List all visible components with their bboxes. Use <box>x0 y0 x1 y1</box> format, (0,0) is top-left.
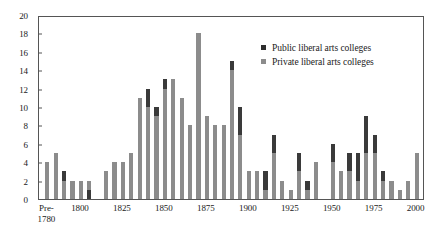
bar-segment-private <box>364 153 368 199</box>
bar-segment-public <box>163 79 167 88</box>
bar-segment-private <box>146 107 150 199</box>
bar-segment-private <box>381 181 385 199</box>
bar-segment-private <box>331 162 335 199</box>
bar <box>138 98 142 199</box>
bar-segment-private <box>255 171 259 199</box>
chart-figure: 02468101214161820 Public liberal arts co… <box>0 0 434 237</box>
bar <box>389 181 393 199</box>
bar-segment-public <box>297 153 301 171</box>
bar <box>280 181 284 199</box>
bar-segment-public <box>154 107 158 116</box>
bar-segment-private <box>45 162 49 199</box>
bar-segment-private <box>171 79 175 199</box>
bar <box>154 107 158 199</box>
bar-segment-private <box>356 181 360 199</box>
bar-segment-private <box>263 190 267 199</box>
bar-segment-private <box>79 181 83 199</box>
bar <box>213 125 217 199</box>
x-tick-label: 2000 <box>407 203 425 214</box>
bar-segment-private <box>154 116 158 199</box>
bar <box>339 171 343 199</box>
bar <box>112 162 116 199</box>
bar <box>79 181 83 199</box>
bar <box>222 125 226 199</box>
bar <box>121 162 125 199</box>
bar <box>406 181 410 199</box>
legend-label-private: Private liberal arts colleges <box>272 57 374 67</box>
bar-segment-private <box>70 181 74 199</box>
y-tick-mark <box>38 108 42 109</box>
y-tick-label: 12 <box>19 85 28 94</box>
bar <box>247 171 251 199</box>
bar-segment-private <box>104 171 108 199</box>
bar <box>205 116 209 199</box>
bar-segment-public <box>356 153 360 181</box>
legend-item-private: Private liberal arts colleges <box>261 55 434 68</box>
bar-segment-public <box>305 181 309 190</box>
y-tick-mark <box>38 71 42 72</box>
bar-segment-private <box>196 33 200 199</box>
bar-segment-private <box>305 190 309 199</box>
bar <box>373 135 377 199</box>
bar-segment-private <box>238 135 242 199</box>
bar-segment-public <box>347 153 351 171</box>
plot-area: Public liberal arts colleges Private lib… <box>38 16 424 200</box>
bar-segment-private <box>272 153 276 199</box>
legend-swatch-private-icon <box>261 59 266 64</box>
bar <box>171 79 175 199</box>
bar-segment-public <box>230 61 234 70</box>
bar-segment-public <box>238 107 242 135</box>
legend-label-public: Public liberal arts colleges <box>272 43 371 53</box>
y-tick-label: 4 <box>24 159 28 168</box>
bar <box>188 125 192 199</box>
bar-segment-private <box>339 171 343 199</box>
bar-segment-public <box>364 116 368 153</box>
bar-segment-public <box>381 171 385 180</box>
y-tick-label: 16 <box>19 48 28 57</box>
legend-item-public: Public liberal arts colleges <box>261 41 434 54</box>
bar <box>104 171 108 199</box>
y-axis: 02468101214161820 <box>0 16 34 200</box>
y-tick-mark <box>38 181 42 182</box>
bar <box>196 33 200 199</box>
bar-segment-private <box>129 153 133 199</box>
bar <box>272 135 276 199</box>
bar <box>87 181 91 199</box>
bar <box>62 171 66 199</box>
bar-segment-private <box>205 116 209 199</box>
bar-segment-private <box>373 153 377 199</box>
bar-segment-private <box>398 190 402 199</box>
bar-segment-private <box>222 125 226 199</box>
bar-segment-private <box>289 190 293 199</box>
bar-segment-private <box>138 98 142 199</box>
bar <box>70 181 74 199</box>
bar <box>415 153 419 199</box>
bar <box>146 89 150 199</box>
y-tick-label: 0 <box>24 196 28 205</box>
x-tick-label: 1950 <box>323 203 341 214</box>
bar-segment-public <box>62 171 66 180</box>
y-tick-label: 8 <box>24 122 28 131</box>
bar <box>398 190 402 199</box>
x-axis: Pre-178018001825185018751900192519501975… <box>38 203 424 235</box>
bar-segment-public <box>87 190 91 199</box>
bar-segment-private <box>406 181 410 199</box>
bar-segment-private <box>112 162 116 199</box>
bar-segment-public <box>263 171 267 189</box>
bar-segment-public <box>146 89 150 107</box>
bar <box>54 153 58 199</box>
y-tick-label: 20 <box>19 12 28 21</box>
x-tick-label: 1975 <box>365 203 383 214</box>
bar <box>263 171 267 199</box>
bar <box>356 153 360 199</box>
x-tick-label: 1825 <box>113 203 131 214</box>
x-tick-label: 1925 <box>281 203 299 214</box>
y-tick-mark <box>38 126 42 127</box>
bar-segment-private <box>180 98 184 199</box>
x-tick-label: 1850 <box>155 203 173 214</box>
y-tick-label: 14 <box>19 67 28 76</box>
y-tick-mark <box>38 144 42 145</box>
bar <box>45 162 49 199</box>
bar <box>331 144 335 199</box>
y-tick-mark <box>38 89 42 90</box>
